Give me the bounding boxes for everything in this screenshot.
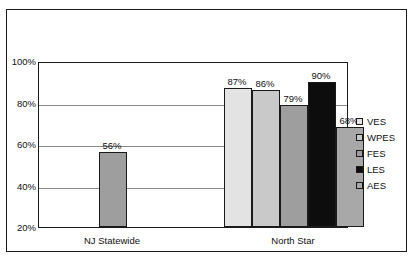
bar-fes [280,105,308,227]
y-axis-tick-label: 40% [2,182,36,192]
legend-swatch-icon [356,166,363,173]
bar-fes [99,152,127,227]
chart-screenshot: 100%80%60%40%20% 56%87%86%79%90%68% NJ S… [0,0,415,261]
bar-wpes [252,90,280,227]
y-axis-tick: 100% [0,57,36,69]
legend-label: LES [367,165,385,175]
bar-les [308,82,336,227]
legend-label: WPES [367,133,395,143]
legend-item-wpes[interactable]: WPES [356,130,408,145]
plot-area [38,62,348,228]
bar-value-label: 86% [251,79,279,89]
y-axis-tick-label: 100% [2,57,36,67]
legend-swatch-icon [356,134,363,141]
bar-value-label: 56% [98,141,126,151]
legend-item-fes[interactable]: FES [356,146,408,161]
x-axis-category-label: North Star [243,236,343,246]
legend-label: AES [367,181,386,191]
legend-label: FES [367,149,385,159]
y-axis-tick-label: 20% [2,223,36,233]
legend-label: VES [367,117,386,127]
legend-swatch-icon [356,118,363,125]
chart-legend: VESWPESFESLESAES [356,114,408,194]
y-axis-tick: 20% [0,223,36,235]
legend-item-aes[interactable]: AES [356,178,408,193]
legend-item-ves[interactable]: VES [356,114,408,129]
y-axis-tick: 40% [0,182,36,194]
bar-value-label: 79% [279,94,307,104]
y-axis-tick-label: 60% [2,140,36,150]
x-axis-category-label: NJ Statewide [62,236,162,246]
bar-ves [224,88,252,227]
bar-value-label: 87% [223,77,251,87]
y-axis-tick-label: 80% [2,99,36,109]
y-axis: 100%80%60%40%20% [0,0,36,261]
legend-swatch-icon [356,150,363,157]
legend-item-les[interactable]: LES [356,162,408,177]
bar-value-label: 90% [307,71,335,81]
y-axis-tick: 60% [0,140,36,152]
y-axis-tick: 80% [0,99,36,111]
legend-swatch-icon [356,182,363,189]
